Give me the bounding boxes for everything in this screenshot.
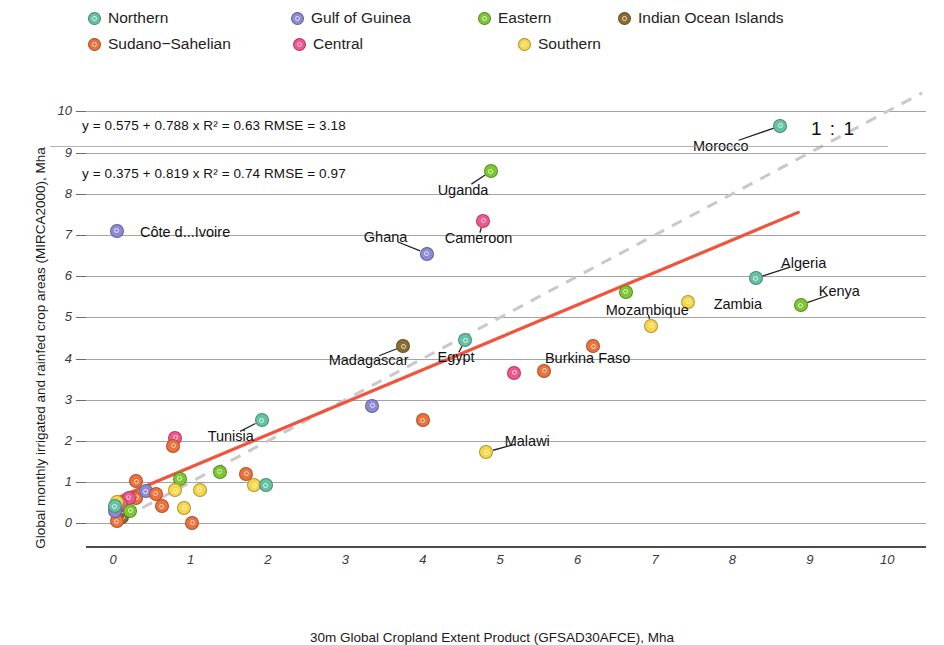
point-label-cameroon: Cameroon bbox=[445, 230, 513, 246]
legend-label: Eastern bbox=[498, 9, 551, 27]
point-label-algeria: Algeria bbox=[781, 255, 826, 271]
legend-swatch-icon bbox=[518, 38, 531, 51]
point-label-c-te-d-ivoire: Côte d...Ivoire bbox=[140, 224, 230, 240]
legend-item-central[interactable]: Central bbox=[293, 35, 363, 53]
y-axis-title: Global monthly irrigated and rainfed cro… bbox=[33, 147, 48, 548]
data-point-ghana[interactable] bbox=[420, 247, 434, 261]
point-label-zambia: Zambia bbox=[714, 296, 762, 312]
legend-label: Northern bbox=[108, 9, 168, 27]
data-point[interactable] bbox=[537, 364, 551, 378]
x-axis-title: 30m Global Cropland Extent Product (GFSA… bbox=[54, 630, 930, 645]
data-point-morocco[interactable] bbox=[773, 119, 787, 133]
data-point-malawi[interactable] bbox=[479, 445, 493, 459]
point-label-burkina-faso: Burkina Faso bbox=[545, 350, 630, 366]
legend-label: Sudano−Sahelian bbox=[108, 35, 231, 53]
legend-swatch-icon bbox=[478, 12, 491, 25]
data-point[interactable] bbox=[416, 413, 430, 427]
data-point[interactable] bbox=[185, 516, 199, 530]
legend-item-eastern[interactable]: Eastern bbox=[478, 9, 551, 27]
data-point[interactable] bbox=[365, 399, 379, 413]
legend-swatch-icon bbox=[88, 12, 101, 25]
legend-item-southern[interactable]: Southern bbox=[518, 35, 601, 53]
data-point-algeria[interactable] bbox=[749, 271, 763, 285]
legend-label: Southern bbox=[538, 35, 601, 53]
point-label-uganda: Uganda bbox=[438, 182, 489, 198]
legend-swatch-icon bbox=[293, 38, 306, 51]
data-point[interactable] bbox=[177, 501, 191, 515]
data-point[interactable] bbox=[123, 504, 137, 518]
point-label-ghana: Ghana bbox=[364, 229, 408, 245]
regression-equation-1: y = 0.575 + 0.788 x R² = 0.63 RMSE = 3.1… bbox=[82, 118, 346, 133]
data-point-egypt[interactable] bbox=[458, 333, 472, 347]
data-point[interactable] bbox=[108, 499, 122, 513]
data-point-c-te-d-ivoire[interactable] bbox=[110, 224, 124, 238]
data-point[interactable] bbox=[193, 483, 207, 497]
equation-divider-1 bbox=[50, 146, 888, 147]
one-to-one-label: 1 : 1 bbox=[811, 118, 855, 140]
legend-swatch-icon bbox=[291, 12, 304, 25]
data-point-kenya[interactable] bbox=[794, 298, 808, 312]
legend-item-sudano-sahelian[interactable]: Sudano−Sahelian bbox=[88, 35, 231, 53]
point-label-madagascar: Madagascar bbox=[329, 352, 409, 368]
data-point[interactable] bbox=[507, 366, 521, 380]
point-label-egypt: Egypt bbox=[438, 349, 475, 365]
legend: NorthernGulf of GuineaEasternIndian Ocea… bbox=[88, 4, 788, 56]
data-point-mozambique[interactable] bbox=[644, 319, 658, 333]
legend-swatch-icon bbox=[88, 38, 101, 51]
legend-label: Indian Ocean Islands bbox=[638, 9, 784, 27]
data-point[interactable] bbox=[619, 285, 633, 299]
regression-equation-2: y = 0.375 + 0.819 x R² = 0.74 RMSE = 0.9… bbox=[82, 166, 346, 181]
legend-label: Gulf of Guinea bbox=[311, 9, 411, 27]
data-point[interactable] bbox=[166, 439, 180, 453]
data-point[interactable] bbox=[259, 478, 273, 492]
legend-item-indian-ocean-islands[interactable]: Indian Ocean Islands bbox=[618, 9, 784, 27]
point-label-kenya: Kenya bbox=[819, 283, 860, 299]
data-point-cameroon[interactable] bbox=[476, 214, 490, 228]
legend-item-gulf-of-guinea[interactable]: Gulf of Guinea bbox=[291, 9, 411, 27]
data-point-tunisia[interactable] bbox=[255, 413, 269, 427]
legend-swatch-icon bbox=[618, 12, 631, 25]
data-point-uganda[interactable] bbox=[484, 164, 498, 178]
legend-label: Central bbox=[313, 35, 363, 53]
point-label-tunisia: Tunisia bbox=[208, 428, 254, 444]
point-label-malawi: Malawi bbox=[505, 433, 550, 449]
legend-item-northern[interactable]: Northern bbox=[88, 9, 168, 27]
plot-area: 012345678910 012345678910 MoroccoUgandaC… bbox=[54, 90, 930, 586]
data-point[interactable] bbox=[155, 499, 169, 513]
point-label-mozambique: Mozambique bbox=[606, 302, 689, 318]
data-point[interactable] bbox=[168, 483, 182, 497]
data-point[interactable] bbox=[213, 465, 227, 479]
